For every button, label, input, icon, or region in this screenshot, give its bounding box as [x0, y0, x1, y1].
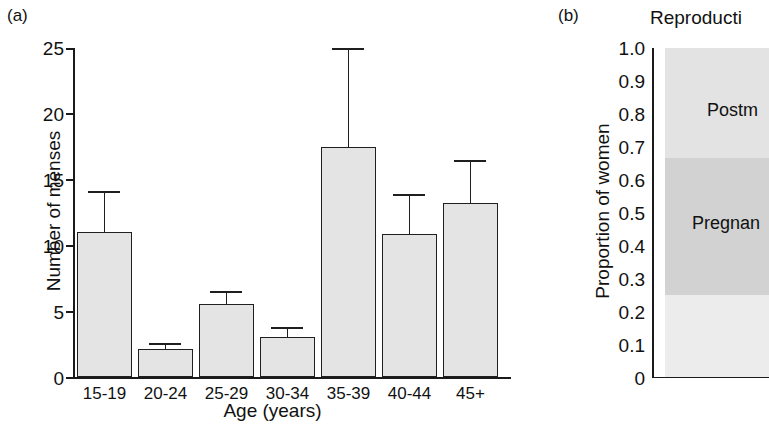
panel-a-bar-25-29: [199, 304, 254, 377]
panel-a-bar-15-19: [77, 232, 132, 377]
panel-b-ytick-label-0_9: 0.9: [603, 72, 645, 91]
panel-b-band-label-pregnant: Pregnan: [692, 213, 760, 234]
panel-a-ytick-label-10: 10: [24, 237, 64, 256]
panel-a-errorbar-stem-45-plus: [470, 160, 472, 203]
panel-a-bar-35-39: [321, 147, 376, 377]
panel-b-ytick-label-0_6: 0.6: [603, 171, 645, 190]
panel-b-y-axis-line: [652, 48, 654, 378]
panel-a-letter: (a): [7, 6, 28, 26]
panel-a-ytick-label-25: 25: [24, 39, 64, 58]
panel-a-ytick-label-20: 20: [24, 105, 64, 124]
figure-root: (a) Number of menses 0 5 10 15 20 25: [0, 0, 769, 428]
panel-a-errorbar-stem-35-39: [348, 48, 350, 147]
panel-b-ytick-label-0_3: 0.3: [603, 270, 645, 289]
panel-b-letter: (b): [558, 6, 579, 26]
panel-b-title: Reproducti: [650, 7, 742, 29]
panel-b-ytick-label-1_0: 1.0: [603, 39, 645, 58]
panel-a-bar-45-plus: [443, 203, 498, 377]
panel-a-bar-30-34: [260, 337, 315, 377]
panel-b-ytick-label-0_7: 0.7: [603, 138, 645, 157]
panel-a-ytick-label-0: 0: [24, 369, 64, 388]
panel-b-plot-area: Postm Pregnan 0 2 4 6: [652, 48, 769, 378]
panel-a-x-axis-label: Age (years): [0, 400, 545, 422]
panel-a-ytick-0: [66, 377, 73, 379]
panel-b-x-axis-line: [652, 377, 769, 378]
panel-a-errorbar-cap-15-19: [88, 191, 120, 193]
panel-a-ytick-15: [66, 179, 73, 181]
panel-a-ytick-25: [66, 48, 73, 50]
panel-a-errorbar-cap-30-34: [271, 327, 303, 329]
panel-a-y-axis-line: [73, 48, 75, 379]
panel-a-errorbar-stem-15-19: [104, 191, 106, 232]
panel-a-bar-20-24: [138, 349, 193, 377]
panel-b-ytick-label-0_5: 0.5: [603, 204, 645, 223]
panel-b-ytick-label-0_2: 0.2: [603, 303, 645, 322]
panel-a-errorbar-cap-25-29: [210, 291, 242, 293]
panel-a-ytick-20: [66, 113, 73, 115]
panel-a-ytick-label-15: 15: [24, 171, 64, 190]
panel-b-ytick-label-0_8: 0.8: [603, 105, 645, 124]
panel-a-bar-chart: (a) Number of menses 0 5 10 15 20 25: [0, 0, 545, 428]
panel-a-errorbar-cap-20-24: [149, 343, 181, 345]
panel-a-errorbar-stem-40-44: [409, 194, 411, 234]
panel-b-ytick-label-0: 0: [603, 369, 645, 388]
panel-a-ytick-10: [66, 245, 73, 247]
panel-b-band-label-postmenopausal: Postm: [707, 100, 758, 121]
panel-a-bar-40-44: [382, 234, 437, 377]
panel-a-ytick-5: [66, 311, 73, 313]
panel-b-ytick-label-0_4: 0.4: [603, 237, 645, 256]
panel-b-area-chart: (b) Reproducti Proportion of women 0 0.1…: [545, 0, 769, 428]
panel-b-band-lower: [665, 295, 769, 377]
panel-a-errorbar-cap-45-plus: [454, 160, 486, 162]
panel-b-ytick-label-0_1: 0.1: [603, 336, 645, 355]
panel-a-plot-area: 15-19 20-24 25-29 30-34 35-39 40-44 45+: [73, 48, 510, 378]
panel-a-errorbar-cap-35-39: [332, 48, 364, 50]
panel-a-errorbar-cap-40-44: [393, 194, 425, 196]
panel-a-x-axis-line: [73, 377, 511, 379]
panel-a-ytick-label-5: 5: [24, 303, 64, 322]
panel-a-errorbar-stem-25-29: [226, 291, 228, 304]
